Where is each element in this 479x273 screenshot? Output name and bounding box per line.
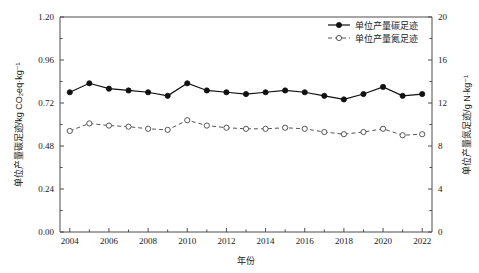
data-point-nitrogen-2016	[302, 126, 307, 131]
x-axis-ticklabel: 2022	[413, 236, 431, 246]
data-point-carbon-2019	[361, 91, 366, 96]
chart-figure: 0.000.240.480.720.961.20 048121620 20042…	[0, 0, 479, 273]
y-axis-right-ticklabel: 16	[438, 55, 448, 65]
data-point-carbon-2020	[380, 84, 385, 89]
y-axis-left-ticklabel: 1.20	[38, 12, 54, 22]
data-point-nitrogen-2008	[146, 126, 151, 131]
data-point-nitrogen-2006	[106, 123, 111, 128]
x-axis-ticklabel: 2004	[61, 236, 80, 246]
legend-label-nitrogen: 单位产量氮足迹	[355, 33, 418, 44]
data-point-nitrogen-2017	[322, 129, 327, 134]
y-axis-left-ticklabel: 0.00	[38, 227, 54, 237]
line-chart-canvas: 0.000.240.480.720.961.20 048121620 20042…	[0, 0, 479, 273]
data-point-nitrogen-2005	[87, 121, 92, 126]
data-point-nitrogen-2004	[67, 128, 72, 133]
y-axis-left-ticklabel: 0.72	[38, 98, 54, 108]
x-axis-ticklabel: 2014	[257, 236, 276, 246]
data-point-carbon-2022	[420, 91, 425, 96]
y-axis-left-ticklabel: 0.96	[38, 55, 54, 65]
data-point-nitrogen-2012	[224, 125, 229, 130]
data-point-carbon-2005	[87, 81, 92, 86]
data-point-carbon-2015	[283, 88, 288, 93]
y-axis-left-ticklabel: 0.24	[38, 184, 54, 194]
y-axis-right-title: 单位产量氮足迹/g N·kg⁻¹	[461, 75, 472, 175]
data-point-carbon-2004	[67, 90, 72, 95]
data-point-nitrogen-2009	[165, 127, 170, 132]
data-point-nitrogen-2007	[126, 124, 131, 129]
data-series-layer	[67, 81, 425, 138]
data-point-carbon-2013	[243, 91, 248, 96]
data-point-carbon-2012	[224, 90, 229, 95]
data-point-carbon-2011	[204, 88, 209, 93]
y-axis-right-ticklabel: 12	[438, 98, 447, 108]
y-axis-right-ticks: 048121620	[428, 12, 448, 237]
x-axis-ticklabel: 2012	[217, 236, 235, 246]
x-axis-ticklabel: 2016	[296, 236, 315, 246]
data-point-carbon-2007	[126, 88, 131, 93]
data-point-carbon-2018	[341, 97, 346, 102]
chart-legend: 单位产量碳足迹 单位产量氮足迹	[328, 20, 418, 44]
x-axis-ticklabel: 2018	[335, 236, 354, 246]
data-point-nitrogen-2019	[361, 129, 366, 134]
x-axis-ticklabel: 2020	[374, 236, 393, 246]
y-axis-right-ticklabel: 0	[438, 227, 443, 237]
x-axis-ticklabel: 2006	[100, 236, 119, 246]
y-axis-right-ticklabel: 8	[438, 141, 443, 151]
data-point-carbon-2006	[106, 86, 111, 91]
legend-label-carbon: 单位产量碳足迹	[355, 20, 418, 31]
data-point-carbon-2008	[146, 90, 151, 95]
data-point-carbon-2009	[165, 93, 170, 98]
data-point-nitrogen-2022	[420, 132, 425, 137]
data-point-nitrogen-2010	[185, 118, 190, 123]
plot-frame	[60, 17, 432, 232]
data-point-nitrogen-2021	[400, 133, 405, 138]
data-point-nitrogen-2018	[341, 132, 346, 137]
data-point-nitrogen-2014	[263, 126, 268, 131]
legend-marker-nitrogen	[336, 35, 341, 40]
data-point-carbon-2014	[263, 90, 268, 95]
data-point-nitrogen-2020	[380, 126, 385, 131]
data-point-carbon-2010	[185, 81, 190, 86]
data-point-nitrogen-2013	[243, 126, 248, 131]
data-point-nitrogen-2011	[204, 123, 209, 128]
y-axis-left-ticklabel: 0.48	[38, 141, 54, 151]
data-point-carbon-2017	[322, 93, 327, 98]
x-axis-title: 年份	[237, 255, 255, 266]
y-axis-right-ticklabel: 4	[438, 184, 443, 194]
legend-marker-carbon	[336, 22, 341, 27]
data-point-nitrogen-2015	[283, 125, 288, 130]
y-axis-right-ticklabel: 20	[438, 12, 448, 22]
x-axis-ticklabel: 2010	[178, 236, 197, 246]
y-axis-left-title: 单位产量碳足迹/kg CO₂eq·kg⁻¹	[13, 63, 24, 188]
x-axis-ticklabel: 2008	[139, 236, 158, 246]
x-axis-ticks: 2004200620082010201220142016201820202022	[61, 228, 431, 246]
data-point-carbon-2016	[302, 90, 307, 95]
data-point-carbon-2021	[400, 93, 405, 98]
